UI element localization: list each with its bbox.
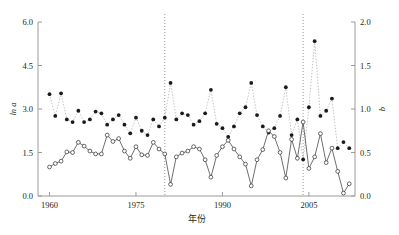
data-point-b <box>249 81 253 85</box>
data-point-b <box>307 105 311 109</box>
y-tick-label-left: 0.0 <box>22 191 33 201</box>
y-tick-label-right: 2.0 <box>360 17 371 27</box>
data-point-b <box>76 109 80 113</box>
x-tick-label: 1975 <box>127 200 144 210</box>
data-point-b <box>174 118 178 122</box>
data-point-ln-a <box>76 140 80 144</box>
data-point-ln-a <box>261 148 265 152</box>
data-point-ln-a <box>244 162 248 166</box>
data-point-b <box>319 114 323 118</box>
data-point-ln-a <box>105 133 109 137</box>
data-point-ln-a <box>157 147 161 151</box>
data-point-b <box>146 133 150 137</box>
data-point-b <box>100 111 104 115</box>
data-point-ln-a <box>174 155 178 159</box>
data-point-ln-a <box>53 162 57 166</box>
data-point-ln-a <box>128 156 132 160</box>
data-point-ln-a <box>146 154 150 158</box>
data-point-ln-a <box>163 152 167 156</box>
data-point-ln-a <box>151 140 155 144</box>
data-point-ln-a <box>134 145 138 149</box>
data-point-ln-a <box>330 146 334 150</box>
data-point-b <box>105 123 109 127</box>
data-point-ln-a <box>88 149 92 153</box>
data-point-ln-a <box>65 150 69 154</box>
data-point-b <box>134 116 138 120</box>
chart-figure: 0.01.53.04.56.00.00.51.01.52.01960197519… <box>0 0 399 235</box>
x-axis-title: 年份 <box>188 213 206 224</box>
data-point-ln-a <box>336 169 340 173</box>
data-point-ln-a <box>232 147 236 151</box>
data-point-b <box>48 92 52 96</box>
data-point-b <box>238 111 242 115</box>
data-point-b <box>111 118 115 122</box>
x-tick-label: 2005 <box>300 200 317 210</box>
data-point-b <box>197 119 201 123</box>
y-tick-label-right: 1.5 <box>360 61 371 71</box>
data-point-b <box>163 116 167 120</box>
data-point-b <box>324 109 328 113</box>
data-point-ln-a <box>319 132 323 136</box>
data-point-b <box>342 140 346 144</box>
data-point-b <box>244 105 248 109</box>
data-point-b <box>301 158 305 162</box>
data-point-b <box>123 123 127 127</box>
y-tick-label-left: 1.5 <box>22 148 33 158</box>
y-tick-label-left: 4.5 <box>22 61 33 71</box>
data-point-ln-a <box>278 151 282 155</box>
data-point-b <box>157 125 161 129</box>
data-point-ln-a <box>301 120 305 124</box>
data-point-b <box>140 129 144 133</box>
data-point-b <box>82 120 86 124</box>
data-point-b <box>186 113 190 117</box>
data-point-ln-a <box>192 145 196 149</box>
data-point-b <box>88 118 92 122</box>
y-axis-title-right: b <box>377 107 387 111</box>
data-point-ln-a <box>180 151 184 155</box>
data-point-b <box>336 146 340 150</box>
data-point-ln-a <box>197 147 201 151</box>
data-point-b <box>94 110 98 114</box>
data-point-b <box>65 118 69 122</box>
data-point-ln-a <box>100 152 104 156</box>
data-point-ln-a <box>48 165 52 169</box>
data-point-b <box>128 131 132 135</box>
y-tick-label-left: 3.0 <box>22 104 33 114</box>
data-point-b <box>261 125 265 129</box>
data-point-ln-a <box>140 153 144 157</box>
data-point-ln-a <box>313 155 317 159</box>
data-point-ln-a <box>295 156 299 160</box>
data-point-b <box>215 122 219 126</box>
data-point-ln-a <box>324 161 328 165</box>
data-point-b <box>221 126 225 130</box>
data-point-b <box>59 91 63 95</box>
data-point-ln-a <box>238 155 242 159</box>
data-point-ln-a <box>59 159 63 163</box>
data-point-ln-a <box>342 191 346 195</box>
data-point-ln-a <box>249 184 253 188</box>
data-point-ln-a <box>290 138 294 142</box>
data-point-ln-a <box>307 167 311 171</box>
data-point-ln-a <box>186 149 190 153</box>
data-point-b <box>272 126 276 130</box>
data-point-ln-a <box>169 183 173 187</box>
data-point-b <box>151 118 155 122</box>
y-tick-label-right: 0.0 <box>360 191 371 201</box>
data-point-b <box>347 146 351 150</box>
data-point-b <box>295 118 299 122</box>
data-point-ln-a <box>94 152 98 156</box>
series-line-ln-a <box>50 122 350 193</box>
data-point-b <box>180 111 184 115</box>
data-point-ln-a <box>272 135 276 139</box>
data-point-ln-a <box>221 145 225 149</box>
data-point-b <box>209 88 213 92</box>
data-point-ln-a <box>82 144 86 148</box>
data-point-ln-a <box>71 151 75 155</box>
data-point-b <box>330 97 334 101</box>
data-point-ln-a <box>215 154 219 158</box>
y-axis-title-left: ln a <box>8 103 18 116</box>
data-point-b <box>192 123 196 127</box>
data-point-b <box>53 114 57 118</box>
data-point-b <box>278 114 282 118</box>
data-point-ln-a <box>111 140 115 144</box>
